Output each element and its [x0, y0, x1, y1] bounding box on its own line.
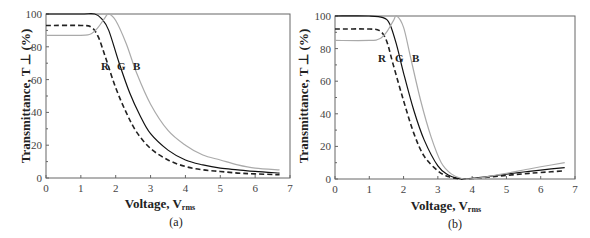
- y-tick-label: 100: [26, 8, 43, 20]
- y-tick-label: 40: [320, 108, 332, 120]
- x-tick-label: 3: [148, 182, 154, 194]
- curve-label-g: G: [117, 60, 126, 72]
- panel-caption: (a): [169, 215, 182, 229]
- curve-r: [335, 29, 565, 179]
- x-tick-label: 6: [252, 182, 258, 194]
- curve-label-r: R: [378, 52, 387, 64]
- x-tick-label: 2: [113, 182, 119, 194]
- y-tick-label: 0: [326, 173, 332, 185]
- curve-label-g: G: [395, 52, 404, 64]
- plot-frame: [46, 14, 290, 178]
- x-tick-label: 7: [572, 183, 578, 195]
- curve-g: [46, 14, 280, 173]
- figure: 01234567020406080100 R G B Transmittance…: [0, 0, 590, 238]
- curves: [46, 14, 280, 175]
- y-axis-title: Transmittance, T ⊥ (%): [18, 29, 33, 164]
- x-tick-label: 7: [287, 182, 293, 194]
- curve-label-b: B: [412, 52, 420, 64]
- y-tick-label: 100: [315, 10, 332, 22]
- x-tick-label: 3: [435, 183, 441, 195]
- x-axis-title: Voltage, Vrms: [125, 196, 195, 212]
- chart-panel-a: 01234567020406080100 R G B Transmittance…: [18, 8, 293, 229]
- x-axis-title: Voltage, Vrms: [411, 198, 481, 214]
- chart-panel-b: 01234567020406080100 R G B Transmittance…: [296, 10, 578, 231]
- curve-b: [335, 16, 565, 179]
- x-tick-label: 1: [78, 182, 84, 194]
- x-tick-label: 5: [504, 183, 510, 195]
- x-tick-label: 2: [401, 183, 407, 195]
- x-tick-label: 1: [367, 183, 373, 195]
- x-tick-label: 6: [538, 183, 544, 195]
- y-tick-label: 0: [37, 172, 43, 184]
- curve-label-b: B: [133, 60, 141, 72]
- x-tick-label: 4: [183, 182, 189, 194]
- y-tick-label: 80: [320, 43, 332, 55]
- curves: [335, 16, 565, 179]
- panel-caption: (b): [448, 217, 462, 231]
- x-tick-label: 5: [218, 182, 224, 194]
- x-tick-label: 0: [332, 183, 338, 195]
- curve-label-r: R: [101, 60, 110, 72]
- y-axis-title: Transmittance, T ⊥ (%): [296, 29, 311, 164]
- x-tick-label: 4: [469, 183, 475, 195]
- y-tick-label: 20: [320, 140, 332, 152]
- y-tick-label: 60: [320, 75, 332, 87]
- curve-r: [46, 25, 280, 174]
- x-tick-label: 0: [43, 182, 49, 194]
